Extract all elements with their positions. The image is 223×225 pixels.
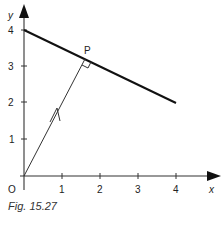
y-tick-label-2: 2: [8, 97, 14, 108]
origin-label: O: [8, 184, 16, 195]
x-tick-label-1: 1: [59, 184, 65, 195]
figure-caption: Fig. 15.27: [8, 200, 57, 212]
line-segment: [24, 30, 176, 103]
y-tick-label-1: 1: [9, 134, 15, 145]
figure-canvas: 1 2 3 4 1 2 3 4 y x O P: [0, 0, 223, 225]
x-tick-label-3: 3: [135, 184, 141, 195]
vector-op: [24, 59, 85, 176]
x-axis-arrow-icon: [207, 171, 221, 181]
y-tick-label-3: 3: [8, 61, 14, 72]
point-p-label: P: [84, 45, 91, 56]
x-tick-label-4: 4: [173, 184, 179, 195]
y-axis-arrow-icon: [19, 4, 29, 18]
x-axis-label: x: [208, 184, 215, 195]
x-tick-label-2: 2: [97, 184, 103, 195]
y-axis-label: y: [7, 10, 14, 21]
y-tick-label-4: 4: [8, 25, 14, 36]
